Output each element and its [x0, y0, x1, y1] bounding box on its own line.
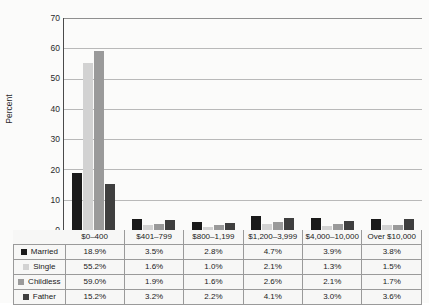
bar-father-2 [225, 223, 235, 230]
y-tick-50: 50 [38, 74, 60, 83]
bar-single-0 [83, 63, 93, 230]
column-header-2: $800–1,199 [184, 230, 243, 245]
cell-single-0: 55.2% [65, 260, 124, 275]
bar-father-5 [404, 219, 414, 230]
column-header-3: $1,200–3,999 [243, 230, 302, 245]
cell-married-2: 2.8% [184, 245, 243, 260]
bar-father-3 [284, 218, 294, 230]
cell-married-1: 3.5% [124, 245, 183, 260]
cell-single-4: 1.3% [303, 260, 362, 275]
row-label-text: Childless [28, 277, 60, 286]
bar-married-1 [132, 219, 142, 230]
cell-father-3: 4.1% [243, 290, 302, 305]
column-header-0: $0–400 [65, 230, 124, 245]
bar-group-1 [124, 18, 184, 230]
row-label-text: Married [31, 247, 58, 256]
cell-childless-0: 59.0% [65, 275, 124, 290]
bar-father-0 [105, 184, 115, 230]
legend-swatch-father-icon [23, 294, 29, 300]
bar-childless-0 [94, 51, 104, 230]
cell-childless-3: 2.6% [243, 275, 302, 290]
bar-group-2 [183, 18, 243, 230]
row-label-father: Father [14, 290, 66, 305]
y-tick-10: 10 [38, 196, 60, 205]
cell-single-2: 1.0% [184, 260, 243, 275]
row-label-single: Single [14, 260, 66, 275]
cell-childless-5: 1.7% [362, 275, 422, 290]
cell-married-5: 3.8% [362, 245, 422, 260]
bar-married-5 [371, 219, 381, 231]
cell-single-3: 2.1% [243, 260, 302, 275]
row-label-childless: Childless [14, 275, 66, 290]
y-axis-title: Percent [4, 94, 14, 123]
table-header-row: $0–400 $401–799 $800–1,199 $1,200–3,999 … [14, 230, 422, 245]
table-row: Married18.9%3.5%2.8%4.7%3.9%3.8% [14, 245, 422, 260]
y-tick-40: 40 [38, 105, 60, 114]
cell-father-2: 2.2% [184, 290, 243, 305]
cell-childless-1: 1.9% [124, 275, 183, 290]
table-body: Married18.9%3.5%2.8%4.7%3.9%3.8%Single55… [14, 245, 422, 305]
row-label-text: Father [33, 292, 56, 301]
cell-childless-2: 1.6% [184, 275, 243, 290]
cell-married-4: 3.9% [303, 245, 362, 260]
cell-married-3: 4.7% [243, 245, 302, 260]
bar-married-4 [311, 218, 321, 230]
bar-group-4 [303, 18, 363, 230]
bar-father-1 [165, 220, 175, 230]
legend-swatch-married-icon [21, 249, 27, 255]
y-tick-30: 30 [38, 135, 60, 144]
bar-childless-3 [273, 222, 283, 230]
cell-single-5: 1.5% [362, 260, 422, 275]
bar-group-5 [362, 18, 422, 230]
bar-married-2 [192, 222, 202, 230]
bar-married-0 [72, 173, 82, 230]
cell-single-1: 1.6% [124, 260, 183, 275]
bar-father-4 [344, 221, 354, 230]
cell-father-5: 3.6% [362, 290, 422, 305]
row-label-text: Single [33, 262, 55, 271]
bar-group-0 [64, 18, 124, 230]
cell-married-0: 18.9% [65, 245, 124, 260]
plot-area [64, 18, 422, 230]
bar-married-3 [251, 216, 261, 230]
column-header-4: $4,000–10,000 [303, 230, 362, 245]
table-row: Childless59.0%1.9%1.6%2.6%2.1%1.7% [14, 275, 422, 290]
legend-swatch-single-icon [23, 264, 29, 270]
column-header-5: Over $10,000 [362, 230, 422, 245]
y-tick-20: 20 [38, 166, 60, 175]
y-tick-60: 60 [38, 44, 60, 53]
cell-father-0: 15.2% [65, 290, 124, 305]
data-table: $0–400 $401–799 $800–1,199 $1,200–3,999 … [13, 230, 422, 305]
y-tick-70: 70 [38, 14, 60, 23]
legend-swatch-childless-icon [18, 279, 24, 285]
row-label-married: Married [14, 245, 66, 260]
table-row: Father15.2%3.2%2.2%4.1%3.0%3.6% [14, 290, 422, 305]
table-row: Single55.2%1.6%1.0%2.1%1.3%1.5% [14, 260, 422, 275]
cell-childless-4: 2.1% [303, 275, 362, 290]
bar-group-3 [243, 18, 303, 230]
cell-father-1: 3.2% [124, 290, 183, 305]
table-corner-cell [14, 230, 66, 245]
cell-father-4: 3.0% [303, 290, 362, 305]
column-header-1: $401–799 [124, 230, 183, 245]
